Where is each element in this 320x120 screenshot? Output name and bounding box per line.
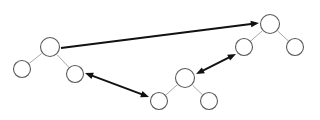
arrow-left-child-to-bottom-child-shaft[interactable] bbox=[91, 75, 144, 95]
relation-arrows-layer bbox=[61, 21, 259, 97]
tree-node-L1[interactable] bbox=[14, 61, 31, 78]
tree-node-R1[interactable] bbox=[236, 39, 253, 56]
arrow-left-child-to-bottom-child-head-start bbox=[85, 73, 94, 79]
diagram-svg bbox=[0, 0, 320, 120]
tree-node-B1[interactable] bbox=[151, 93, 168, 110]
tree-node-L2[interactable] bbox=[67, 66, 84, 83]
arrow-left-child-to-bottom-child-head-end bbox=[140, 91, 149, 97]
diagram-canvas bbox=[0, 0, 320, 120]
tree-edge-L0-L2 bbox=[57, 55, 68, 67]
tree-nodes-layer bbox=[14, 15, 304, 110]
tree-edge-B0-B1 bbox=[166, 85, 177, 95]
tree-edge-R0-R1 bbox=[251, 31, 262, 41]
arrow-left-root-to-right-root-shaft[interactable] bbox=[61, 24, 253, 48]
tree-node-L0[interactable] bbox=[41, 38, 60, 57]
tree-node-R2[interactable] bbox=[287, 39, 304, 56]
arrow-left-root-to-right-root-head-end bbox=[250, 21, 259, 28]
tree-edge-B0-B2 bbox=[193, 85, 203, 94]
tree-edge-L0-L1 bbox=[29, 53, 41, 63]
arrow-bottom-root-to-right-child-shaft[interactable] bbox=[201, 57, 230, 72]
tree-node-B2[interactable] bbox=[201, 93, 218, 110]
tree-edge-R0-R2 bbox=[278, 31, 288, 40]
tree-node-R0[interactable] bbox=[261, 15, 280, 34]
tree-node-B0[interactable] bbox=[176, 69, 195, 88]
arrow-bottom-root-to-right-child-head-end bbox=[227, 54, 236, 61]
arrow-bottom-root-to-right-child-head-start bbox=[196, 67, 205, 74]
